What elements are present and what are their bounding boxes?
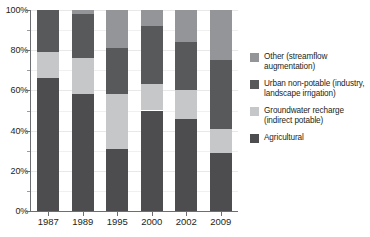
bar-segment[interactable] — [210, 129, 232, 153]
y-axis-minor-tick — [27, 70, 30, 71]
y-axis: 0%20%40%60%80%100% — [0, 0, 28, 237]
stacked-bar-chart: 0%20%40%60%80%100% 198719891995200020022… — [0, 0, 370, 237]
y-axis-major-tick — [26, 50, 30, 51]
gridline — [31, 50, 238, 51]
gridline-minor — [31, 70, 238, 71]
gridline — [31, 171, 238, 172]
bar-segment[interactable] — [37, 52, 59, 78]
y-axis-minor-tick — [27, 151, 30, 152]
y-axis-tick-label: 0% — [0, 207, 28, 216]
bar-segment[interactable] — [106, 48, 128, 94]
plot-area — [31, 10, 238, 211]
y-axis-major-tick — [26, 90, 30, 91]
bar-segment[interactable] — [106, 10, 128, 48]
bar-2009[interactable] — [210, 10, 232, 211]
legend-item[interactable]: Agricultural — [250, 133, 368, 143]
gridline — [31, 10, 238, 11]
bar-2002[interactable] — [175, 10, 197, 211]
bar-segment[interactable] — [72, 94, 94, 211]
bar-segment[interactable] — [37, 10, 59, 52]
bar-segment[interactable] — [72, 10, 94, 14]
gridline — [31, 131, 238, 132]
y-axis-major-tick — [26, 171, 30, 172]
legend-item[interactable]: Other (streamflow augmentation) — [250, 52, 368, 72]
gridline-minor — [31, 30, 238, 31]
y-axis-tick-label: 100% — [0, 6, 28, 15]
bar-segment[interactable] — [210, 60, 232, 128]
bar-segment[interactable] — [106, 94, 128, 148]
legend-swatch-icon — [250, 107, 259, 116]
y-axis-minor-tick — [27, 111, 30, 112]
legend-item-label: Urban non-potable (industry, landscape i… — [264, 79, 368, 99]
plot-wrapper: 0%20%40%60%80%100% 198719891995200020022… — [0, 0, 240, 237]
y-axis-tick-label: 40% — [0, 126, 28, 135]
y-axis-minor-tick — [27, 191, 30, 192]
bar-segment[interactable] — [37, 78, 59, 211]
bar-segment[interactable] — [175, 90, 197, 118]
y-axis-major-tick — [26, 10, 30, 11]
legend-item[interactable]: Groundwater recharge (indirect potable) — [250, 106, 368, 126]
y-axis-minor-tick — [27, 30, 30, 31]
legend-swatch-icon — [250, 80, 259, 89]
x-axis-tick-label: 2009 — [201, 217, 241, 227]
bar-segment[interactable] — [175, 119, 197, 211]
bar-segment[interactable] — [72, 14, 94, 58]
x-axis-line — [30, 211, 238, 212]
legend-swatch-icon — [250, 134, 259, 143]
bar-segment[interactable] — [210, 153, 232, 211]
bar-segment[interactable] — [106, 149, 128, 211]
y-axis-tick-label: 60% — [0, 86, 28, 95]
bar-segment[interactable] — [141, 10, 163, 26]
bar-segment[interactable] — [141, 84, 163, 110]
y-axis-tick-label: 80% — [0, 46, 28, 55]
bar-segment[interactable] — [175, 42, 197, 90]
bar-segment[interactable] — [141, 111, 163, 212]
gridline-minor — [31, 191, 238, 192]
legend-item-label: Agricultural — [264, 133, 304, 143]
y-axis-major-tick — [26, 131, 30, 132]
bar-1989[interactable] — [72, 10, 94, 211]
bar-segment[interactable] — [72, 58, 94, 94]
gridline-minor — [31, 151, 238, 152]
gridline-minor — [31, 111, 238, 112]
legend-item-label: Other (streamflow augmentation) — [264, 52, 368, 72]
chart-legend: Other (streamflow augmentation)Urban non… — [250, 52, 368, 150]
bar-2000[interactable] — [141, 10, 163, 211]
legend-item-label: Groundwater recharge (indirect potable) — [264, 106, 368, 126]
legend-swatch-icon — [250, 53, 259, 62]
y-axis-major-tick — [26, 211, 30, 212]
bar-segment[interactable] — [141, 26, 163, 84]
bar-segment[interactable] — [210, 10, 232, 60]
gridline — [31, 90, 238, 91]
bar-segment[interactable] — [175, 10, 197, 42]
bar-1995[interactable] — [106, 10, 128, 211]
bar-1987[interactable] — [37, 10, 59, 211]
legend-item[interactable]: Urban non-potable (industry, landscape i… — [250, 79, 368, 99]
y-axis-tick-label: 20% — [0, 166, 28, 175]
